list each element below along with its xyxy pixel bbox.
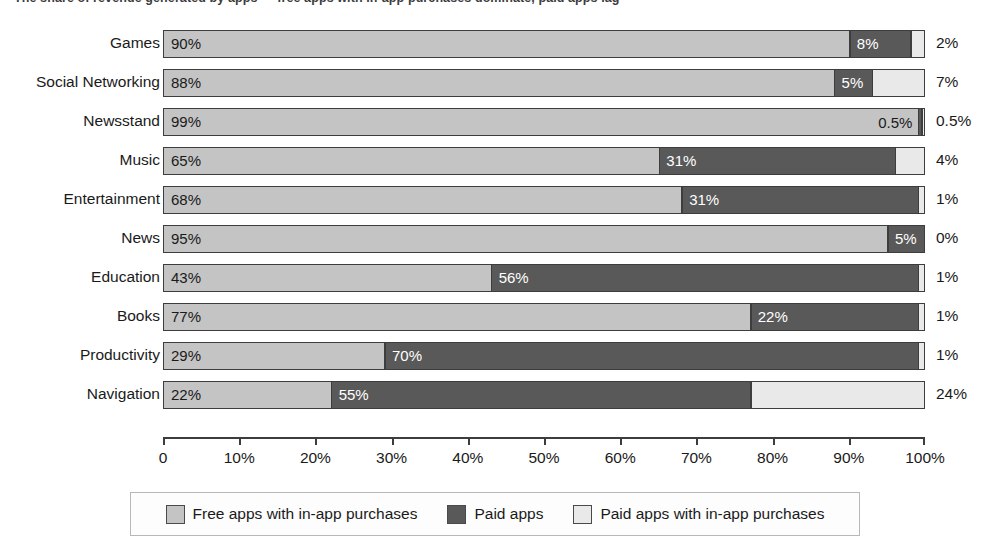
bar-segment[interactable]: 65% [164,148,659,174]
chart-row: Games90%8%2% [0,27,990,66]
bar-segment[interactable]: 70% [385,343,918,369]
bar-segment[interactable]: 43% [164,265,492,291]
x-axis-tick [544,437,546,445]
bar-segment[interactable] [918,343,925,369]
segment-value-label: 31% [659,147,696,175]
stacked-bar[interactable]: 65%31% [163,147,925,175]
segment-divider [918,265,920,291]
category-label: Games [0,33,160,53]
stacked-bar[interactable]: 29%70% [163,342,925,370]
stacked-bar[interactable]: 88%5% [163,69,925,97]
segment-value-label: 90% [164,30,201,58]
bar-segment[interactable] [873,70,925,96]
bar-segment[interactable]: 95% [164,226,888,252]
x-axis-tick-label: 10% [224,449,255,467]
legend-label: Free apps with in-app purchases [193,505,418,523]
stacked-bar[interactable]: 99%0.5%0.5% [163,108,925,136]
legend-label: Paid apps [474,505,543,523]
stacked-bar[interactable]: 22%55% [163,381,925,409]
segment-divider [895,148,897,174]
chart-row: Education43%56%1% [0,261,990,300]
chart-row: Music65%31%4% [0,144,990,183]
x-axis: 010%20%30%40%50%60%70%80%90%100% [163,437,925,438]
x-axis-tick [392,437,394,445]
chart-row: News95%5%0% [0,222,990,261]
segment-value-label: 0.5% [878,109,912,136]
category-label: Books [0,306,160,326]
segment-divider [918,343,920,369]
stacked-bar[interactable]: 77%22% [163,303,925,331]
segment-value-label: 68% [164,186,201,214]
segment-value-label: 5% [888,225,917,253]
legend-item[interactable]: Paid apps [447,505,543,524]
legend-item[interactable]: Paid apps with in-app purchases [573,505,824,524]
bar-segment[interactable]: 88% [164,70,835,96]
x-axis-tick-label: 40% [452,449,483,467]
legend-item[interactable]: Free apps with in-app purchases [166,505,418,524]
bar-segment[interactable] [896,148,925,174]
segment-value-label: 77% [164,303,201,331]
x-axis-tick-label: 0 [159,449,168,467]
stacked-bar[interactable]: 90%8% [163,30,925,58]
x-axis-tick-label: 30% [376,449,407,467]
bar-segment[interactable]: 22% [164,382,332,408]
stacked-bar[interactable]: 68%31% [163,186,925,214]
segment-divider [918,109,920,135]
segment-value-label: 43% [164,264,201,292]
segment-value-label: 56% [492,264,529,292]
row-end-value-label: 1% [936,345,958,365]
legend-swatch [166,505,185,524]
row-end-value-label: 24% [936,384,967,404]
bar-segment[interactable]: 56% [492,265,919,291]
segment-value-label: 65% [164,147,201,175]
category-label: Social Networking [0,72,160,92]
segment-divider [918,187,920,213]
segment-divider [921,109,923,135]
bar-segment[interactable]: 68% [164,187,682,213]
bar-segment[interactable]: 55% [332,382,751,408]
bar-segment[interactable]: 22% [751,304,919,330]
segment-value-label: 55% [332,381,369,409]
segment-divider [910,31,912,57]
bar-segment[interactable] [751,382,925,408]
row-end-value-label: 1% [936,189,958,209]
x-axis-tick [468,437,470,445]
legend-swatch [573,505,592,524]
x-axis-tick-label: 100% [905,449,945,467]
bar-segment[interactable]: 29% [164,343,385,369]
chart-row: Books77%22%1% [0,300,990,339]
stacked-bar[interactable]: 43%56% [163,264,925,292]
legend-swatch [447,505,466,524]
segment-value-label: 22% [164,381,201,409]
category-label: Newsstand [0,111,160,131]
bar-segment[interactable]: 31% [682,187,918,213]
stacked-bar[interactable]: 95%5% [163,225,925,253]
x-axis-tick-label: 50% [528,449,559,467]
bar-segment[interactable]: 31% [659,148,895,174]
legend-label: Paid apps with in-app purchases [600,505,824,523]
row-end-value-label: 0% [936,228,958,248]
chart-title: The share of revenue generated by apps —… [14,0,974,5]
bar-segment[interactable]: 8% [850,31,911,57]
category-label: Music [0,150,160,170]
bar-segment[interactable] [918,265,925,291]
segment-value-label: 29% [164,342,201,370]
x-axis-tick-label: 20% [300,449,331,467]
bar-segment[interactable] [918,304,925,330]
category-label: Navigation [0,384,160,404]
row-end-value-label: 2% [936,33,958,53]
bar-segment[interactable] [918,187,925,213]
stacked-bar-plot-area: Games90%8%2%Social Networking88%5%7%News… [0,24,990,436]
bar-segment[interactable]: 77% [164,304,751,330]
bar-segment[interactable]: 5% [888,226,925,252]
segment-value-label: 88% [164,69,201,97]
bar-segment[interactable] [911,31,925,57]
row-end-value-label: 4% [936,150,958,170]
bar-segment[interactable]: 5% [835,70,873,96]
segment-value-label: 95% [164,225,201,253]
bar-segment[interactable]: 90% [164,31,850,57]
bar-segment[interactable]: 99% [164,109,918,135]
chart-row: Newsstand99%0.5%0.5%0.5% [0,105,990,144]
row-end-value-label: 7% [936,72,958,92]
chart-row: Navigation22%55%24% [0,378,990,417]
